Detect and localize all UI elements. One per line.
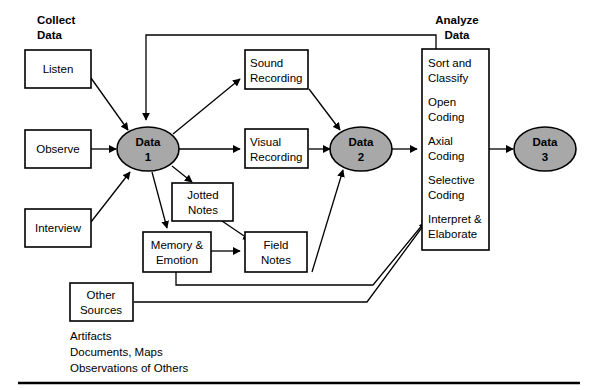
sound-recording-box[interactable]: Sound Recording: [245, 50, 308, 89]
data2-node-line1: Data: [349, 136, 375, 148]
sound-recording-box-line1: Sound: [250, 57, 283, 69]
interview-box-label: Interview: [35, 222, 82, 234]
analyze-data-heading-line1: Analyze: [435, 14, 478, 26]
other-sources-box-line1: Other: [87, 289, 116, 301]
connector-sound-recording-to-data2: [309, 89, 340, 130]
other-sources-box[interactable]: Other Sources: [70, 283, 133, 321]
observe-box-label: Observe: [36, 143, 79, 155]
data2-node-line2: 2: [358, 151, 364, 163]
data3-node-line2: 3: [542, 151, 548, 163]
other-sources-list-item-0: Artifacts: [70, 330, 112, 342]
memory-emotion-box[interactable]: Memory & Emotion: [143, 232, 211, 272]
other-sources-list: Artifacts Documents, Maps Observations o…: [70, 330, 188, 374]
data3-node[interactable]: Data 3: [514, 127, 576, 171]
analyze-data-heading-line2: Data: [445, 29, 471, 41]
data1-node[interactable]: Data 1: [117, 127, 179, 171]
connector-listen-to-data1: [91, 78, 128, 130]
listen-box-label: Listen: [43, 63, 74, 75]
collect-data-heading: Collect Data: [37, 14, 76, 41]
memory-emotion-box-line2: Emotion: [156, 254, 198, 266]
jotted-notes-box-line1: Jotted: [187, 189, 218, 201]
field-notes-box[interactable]: Field Notes: [245, 232, 307, 272]
diagram-page: Collect Data Analyze Data: [0, 0, 597, 390]
analyze-step-open-coding-line2: Coding: [428, 111, 464, 123]
data3-node-line1: Data: [533, 136, 559, 148]
other-sources-box-line2: Sources: [80, 304, 122, 316]
data2-node[interactable]: Data 2: [330, 127, 392, 171]
connector-interview-to-data1: [91, 172, 130, 222]
analyze-step-selective-coding-line2: Coding: [428, 189, 464, 201]
visual-recording-box[interactable]: Visual Recording: [245, 129, 308, 168]
connector-data1-to-jotted-notes: [172, 166, 192, 182]
data1-node-line1: Data: [136, 136, 162, 148]
analyze-step-interpret-elaborate-line2: Elaborate: [428, 228, 477, 240]
data1-node-line2: 1: [145, 151, 152, 163]
analyze-step-axial-coding-line1: Axial: [428, 135, 453, 147]
connector-data1-to-sound-recording: [173, 79, 240, 134]
analyze-step-sort-and-classify-line2: Classify: [428, 72, 469, 84]
analyze-step-interpret-elaborate-line1: Interpret &: [428, 213, 482, 225]
analyze-step-sort-and-classify-line1: Sort and: [428, 57, 471, 69]
visual-recording-box-line1: Visual: [250, 136, 281, 148]
other-sources-list-item-1: Documents, Maps: [70, 346, 163, 358]
interview-box[interactable]: Interview: [25, 209, 91, 247]
memory-emotion-box-line1: Memory &: [151, 239, 204, 251]
field-notes-box-line1: Field: [264, 239, 289, 251]
analyze-data-heading: Analyze Data: [435, 14, 478, 41]
connector-data1-to-memory-emotion: [152, 172, 167, 228]
other-sources-list-item-2: Observations of Others: [70, 362, 188, 374]
research-data-flow-diagram: Collect Data Analyze Data: [0, 0, 597, 390]
collect-data-heading-line2: Data: [37, 29, 63, 41]
analyze-step-selective-coding-line1: Selective: [428, 174, 475, 186]
sound-recording-box-line2: Recording: [250, 72, 302, 84]
jotted-notes-box[interactable]: Jotted Notes: [172, 183, 233, 221]
jotted-notes-box-line2: Notes: [188, 204, 218, 216]
field-notes-box-line2: Notes: [261, 254, 291, 266]
collect-data-heading-line1: Collect: [37, 14, 76, 26]
visual-recording-box-line2: Recording: [250, 151, 302, 163]
observe-box[interactable]: Observe: [25, 130, 91, 168]
listen-box[interactable]: Listen: [25, 50, 91, 88]
analyze-step-open-coding-line1: Open: [428, 96, 456, 108]
connector-field-notes-to-data2: [312, 170, 343, 272]
analyze-data-box[interactable]: Sort and Classify Open Coding Axial Codi…: [422, 49, 489, 250]
analyze-step-axial-coding-line2: Coding: [428, 150, 464, 162]
